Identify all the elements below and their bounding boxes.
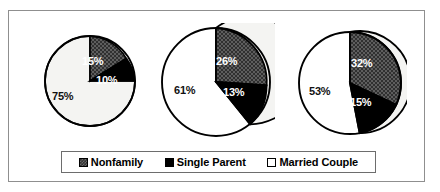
- black-square-icon: [165, 158, 174, 167]
- chart-frame: 15% 10% 75%: [8, 10, 425, 182]
- pie-1-label-nonfamily: 15%: [82, 56, 103, 67]
- pie-2-label-nonfamily: 26%: [216, 56, 237, 67]
- pie-chart-1: 15% 10% 75%: [40, 31, 140, 131]
- pie-chart-2: 26% 13% 61%: [157, 23, 275, 141]
- legend-label-single-parent: Single Parent: [177, 156, 246, 168]
- white-square-icon: [267, 158, 276, 167]
- pie-3-label-married-couple: 53%: [309, 86, 330, 97]
- pie-1-label-married-couple: 75%: [52, 91, 73, 102]
- legend-label-married-couple: Married Couple: [279, 156, 358, 168]
- chart-legend: Nonfamily Single Parent Married Couple: [61, 151, 376, 173]
- pie-1-svg: [40, 31, 140, 131]
- pie-2-label-single-parent: 13%: [223, 87, 244, 98]
- legend-item-married-couple[interactable]: Married Couple: [267, 156, 358, 168]
- pie-1-label-single-parent: 10%: [96, 75, 117, 86]
- pie-chart-group: 15% 10% 75%: [9, 11, 426, 149]
- pie-3-label-single-parent: 15%: [350, 97, 371, 108]
- legend-item-nonfamily[interactable]: Nonfamily: [79, 156, 143, 168]
- pie-3-svg: [293, 26, 407, 140]
- pie-3-label-nonfamily: 32%: [351, 58, 372, 69]
- dark-patterned-square-icon: [79, 158, 88, 167]
- legend-item-single-parent[interactable]: Single Parent: [165, 156, 246, 168]
- legend-label-nonfamily: Nonfamily: [91, 156, 143, 168]
- pie-chart-3: 32% 15% 53%: [293, 26, 407, 140]
- pie-2-label-married-couple: 61%: [174, 85, 195, 96]
- pie-2-svg: [157, 23, 275, 141]
